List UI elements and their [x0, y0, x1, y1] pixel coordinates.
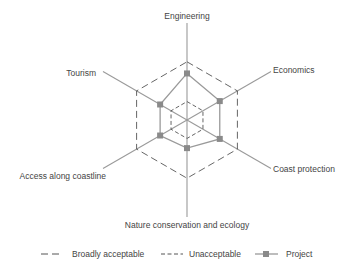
- axis-label-engineering: Engineering: [164, 11, 210, 21]
- axis-label-tourism: Tourism: [66, 68, 96, 78]
- project-marker-icon: [184, 70, 190, 76]
- radar-chart: Engineering Economics Coast protection N…: [0, 0, 350, 275]
- radar-axes: [103, 23, 271, 217]
- project-marker-icon: [217, 98, 223, 104]
- axis-label-economics: Economics: [273, 65, 315, 75]
- axis-label-nature-conservation: Nature conservation and ecology: [125, 220, 250, 230]
- legend-item-broadly-acceptable: Broadly acceptable: [41, 249, 145, 259]
- axis-line: [187, 72, 271, 121]
- axis-label-coast-protection: Coast protection: [273, 164, 335, 174]
- axis-line: [103, 120, 187, 169]
- project-polygon: [160, 73, 220, 148]
- project-marker-icon: [184, 145, 190, 151]
- legend-label-broadly-acceptable: Broadly acceptable: [72, 249, 145, 259]
- project-marker-icon: [157, 101, 163, 107]
- legend-label-project: Project: [286, 249, 313, 259]
- legend-item-project: Project: [255, 249, 313, 259]
- project-marker-icon: [217, 136, 223, 142]
- axis-label-access-along-coastline: Access along coastline: [20, 171, 107, 181]
- legend-item-unacceptable: Unacceptable: [161, 249, 241, 259]
- project-series: [157, 70, 223, 151]
- legend: Broadly acceptable Unacceptable Project: [41, 249, 313, 259]
- legend-project-marker-icon: [263, 251, 269, 257]
- axis-labels: Engineering Economics Coast protection N…: [20, 11, 336, 230]
- legend-label-unacceptable: Unacceptable: [189, 249, 241, 259]
- axis-line: [103, 72, 187, 121]
- project-marker-icon: [157, 133, 163, 139]
